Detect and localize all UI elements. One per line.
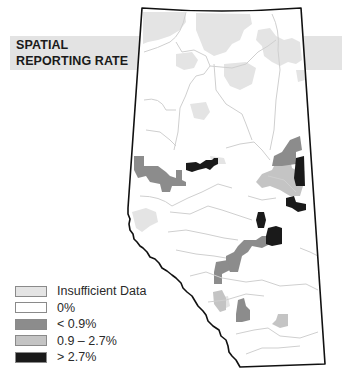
legend-item-high: > 2.7% [15,349,146,366]
legend-swatch-insufficient [15,286,47,297]
legend-item-low: < 0.9% [15,316,146,333]
legend-item-zero: 0% [15,300,146,317]
region-high-south-central-1 [256,212,266,228]
legend-item-mid: 0.9 – 2.7% [15,333,146,350]
legend-label: < 0.9% [57,317,96,331]
legend-label: Insufficient Data [57,284,146,298]
legend-label: > 2.7% [57,350,96,364]
legend-item-insufficient: Insufficient Data [15,283,146,300]
legend: Insufficient Data 0% < 0.9% 0.9 – 2.7% >… [15,283,146,366]
region-high-south-central-2 [266,226,282,246]
legend-label: 0% [57,301,75,315]
legend-label: 0.9 – 2.7% [57,334,117,348]
legend-swatch-zero [15,302,47,313]
legend-swatch-mid [15,335,47,346]
legend-swatch-high [15,352,47,363]
legend-swatch-low [15,319,47,330]
